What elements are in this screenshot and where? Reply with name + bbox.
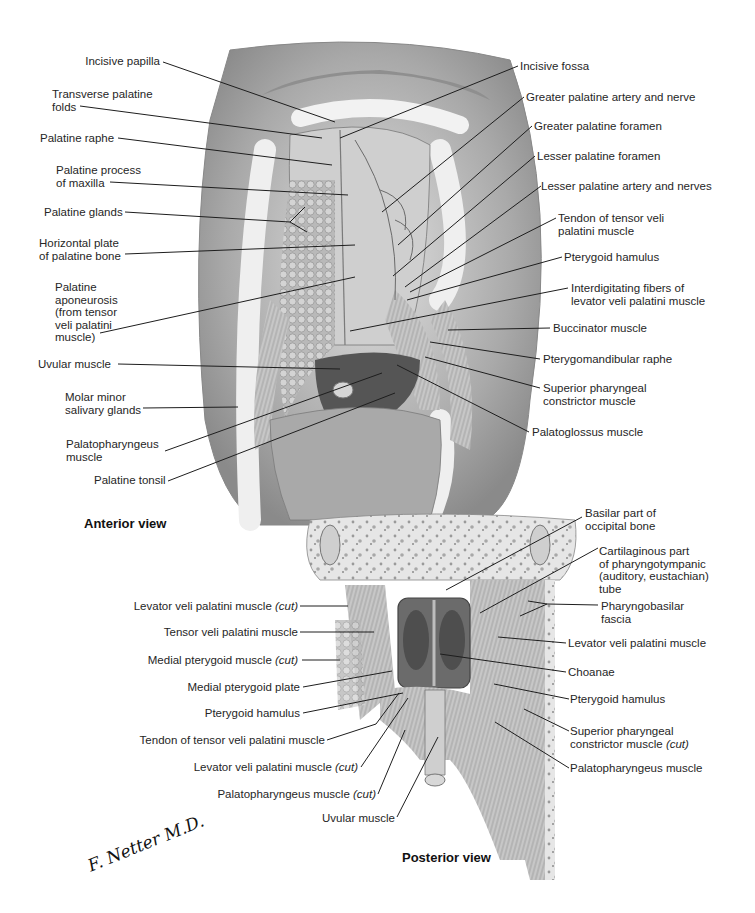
label-palatopharyngeus-cut: Palatopharyngeus muscle (cut) xyxy=(60,788,376,801)
label-levator-veli-palatini-muscle-posterior: Levator veli palatini muscle xyxy=(568,637,706,650)
label-uvular-muscle-posterior: Uvular muscle xyxy=(322,812,395,825)
label-cartilaginous-pharyngotympanic-tube: Cartilaginous part of pharyngotympanic (… xyxy=(599,545,709,595)
cut-note: (cut) xyxy=(335,761,358,773)
posterior-view-title: Posterior view xyxy=(402,850,491,865)
label-interdigitating-fibers: Interdigitating fibers of levator veli p… xyxy=(571,282,705,307)
label-text: Palatopharyngeus muscle xyxy=(217,788,349,800)
label-text: Levator veli palatini muscle xyxy=(134,600,272,612)
label-transverse-palatine-folds: Transverse palatine folds xyxy=(52,88,153,113)
label-palatine-process-maxilla: Palatine process of maxilla xyxy=(56,164,141,189)
label-uvular-muscle-anterior: Uvular muscle xyxy=(38,358,111,371)
label-basilar-part-occipital-bone: Basilar part of occipital bone xyxy=(585,507,656,532)
cut-note: (cut) xyxy=(275,654,298,666)
anterior-illustration xyxy=(199,42,542,525)
label-greater-palatine-foramen: Greater palatine foramen xyxy=(534,120,662,133)
label-lesser-palatine-foramen: Lesser palatine foramen xyxy=(537,150,660,163)
label-superior-pharyngeal-constrictor-anterior: Superior pharyngeal constrictor muscle xyxy=(543,382,647,407)
label-greater-palatine-artery-nerve: Greater palatine artery and nerve xyxy=(526,91,695,104)
label-pterygoid-hamulus-posterior-right: Pterygoid hamulus xyxy=(570,693,665,706)
cut-note: (cut) xyxy=(353,788,376,800)
label-text: Levator veli palatini muscle xyxy=(194,761,332,773)
label-molar-minor-salivary-glands: Molar minor salivary glands xyxy=(65,391,141,416)
label-palatine-glands: Palatine glands xyxy=(44,206,123,219)
label-palatine-aponeurosis: Palatine aponeurosis (from tensor veli p… xyxy=(55,281,118,344)
label-palatine-tonsil: Palatine tonsil xyxy=(94,474,166,487)
label-incisive-fossa: Incisive fossa xyxy=(520,60,589,73)
anterior-view-title: Anterior view xyxy=(84,516,166,531)
label-choanae: Choanae xyxy=(568,666,615,679)
cut-note: (cut) xyxy=(666,738,689,750)
label-pterygoid-hamulus-posterior-left: Pterygoid hamulus xyxy=(60,707,300,720)
label-medial-pterygoid-muscle-cut: Medial pterygoid muscle (cut) xyxy=(60,654,298,667)
label-palatopharyngeus-muscle-anterior: Palatopharyngeus muscle xyxy=(66,438,159,463)
anatomy-figure: Incisive papilla Transverse palatine fol… xyxy=(0,0,755,913)
label-incisive-papilla: Incisive papilla xyxy=(40,55,160,68)
label-tensor-veli-palatini-muscle: Tensor veli palatini muscle xyxy=(60,626,298,639)
label-lesser-palatine-artery-nerves: Lesser palatine artery and nerves xyxy=(541,180,712,193)
label-pterygomandibular-raphe: Pterygomandibular raphe xyxy=(543,353,672,366)
label-horizontal-plate-palatine-bone: Horizontal plate of palatine bone xyxy=(39,237,121,262)
label-palatine-raphe: Palatine raphe xyxy=(40,132,114,145)
label-tendon-tensor-veli-palatini-posterior: Tendon of tensor veli palatini muscle xyxy=(60,734,325,747)
label-medial-pterygoid-plate: Medial pterygoid plate xyxy=(60,681,300,694)
label-palatopharyngeus-muscle-posterior: Palatopharyngeus muscle xyxy=(570,762,702,775)
label-text: Medial pterygoid muscle xyxy=(148,654,272,666)
label-buccinator-muscle: Buccinator muscle xyxy=(553,322,647,335)
label-pharyngobasilar-fascia: Pharyngobasilar fascia xyxy=(601,600,684,625)
label-text: Superior pharyngeal constrictor muscle xyxy=(570,725,674,750)
label-tendon-tensor-veli-palatini-anterior: Tendon of tensor veli palatini muscle xyxy=(558,212,664,237)
posterior-illustration xyxy=(307,514,576,880)
label-superior-pharyngeal-constrictor-cut: Superior pharyngeal constrictor muscle (… xyxy=(570,725,689,750)
label-palatoglossus-muscle: Palatoglossus muscle xyxy=(532,426,643,439)
label-levator-veli-palatini-cut-2: Levator veli palatini muscle (cut) xyxy=(60,761,358,774)
label-pterygoid-hamulus-anterior: Pterygoid hamulus xyxy=(564,251,659,264)
label-levator-veli-palatini-cut-1: Levator veli palatini muscle (cut) xyxy=(60,600,298,613)
cut-note: (cut) xyxy=(275,600,298,612)
